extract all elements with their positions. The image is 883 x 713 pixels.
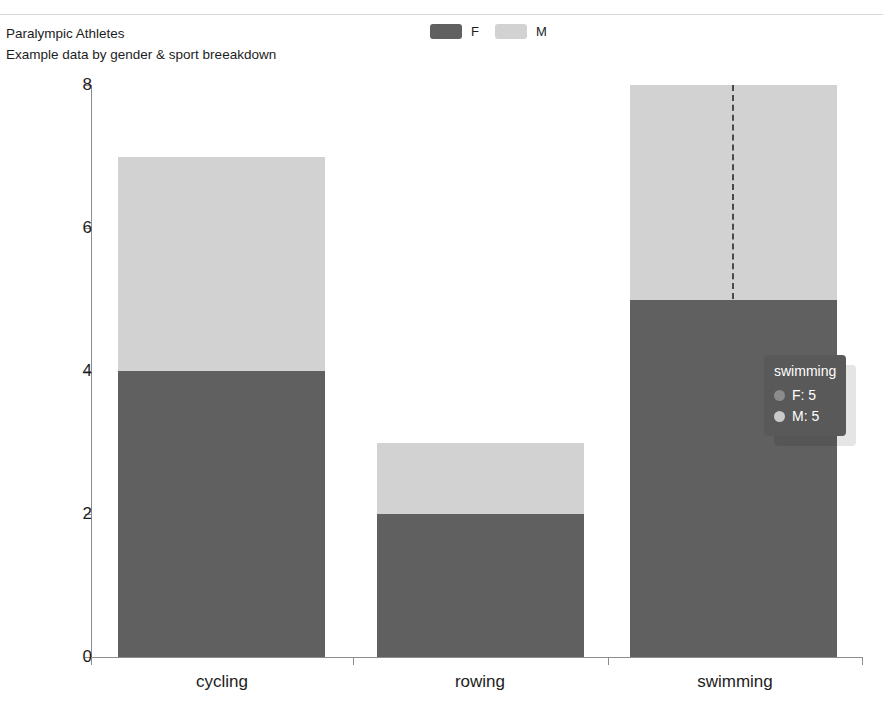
x-tick-end	[862, 657, 863, 665]
hover-indicator-line	[732, 85, 734, 299]
tooltip-row-m: M: 5	[774, 406, 834, 427]
x-tick-label-rowing: rowing	[455, 672, 505, 692]
y-tick-label-8: 8	[32, 75, 92, 95]
tooltip-row-f: F: 5	[774, 385, 834, 406]
tooltip-dot-m	[774, 411, 785, 422]
chart-page: Paralympic Athletes Example data by gend…	[0, 0, 883, 713]
tooltip-dot-f	[774, 390, 785, 401]
bar-rowing-f[interactable]	[377, 514, 584, 657]
x-tick-start	[91, 657, 92, 665]
tooltip-title: swimming	[774, 363, 834, 380]
plot-area: 0 2 4 6 8 cyc	[0, 0, 883, 713]
bar-rowing-m[interactable]	[377, 443, 584, 514]
tooltip-value-m: M: 5	[792, 406, 819, 427]
y-tick-label-4: 4	[32, 361, 92, 381]
tooltip-value-f: F: 5	[792, 385, 816, 406]
chart-tooltip: swimming F: 5 M: 5	[764, 355, 846, 436]
bar-cycling-m[interactable]	[118, 157, 325, 371]
x-axis-line	[91, 657, 863, 658]
bar-swimming-f[interactable]	[630, 300, 837, 657]
y-tick-label-0: 0	[32, 647, 92, 667]
y-tick-label-2: 2	[32, 504, 92, 524]
bar-cycling-f[interactable]	[118, 371, 325, 657]
x-tick-label-cycling: cycling	[196, 672, 248, 692]
x-tick-cycling-rowing	[353, 657, 354, 665]
x-tick-rowing-swimming	[608, 657, 609, 665]
y-tick-label-6: 6	[32, 218, 92, 238]
x-tick-label-swimming: swimming	[697, 672, 773, 692]
